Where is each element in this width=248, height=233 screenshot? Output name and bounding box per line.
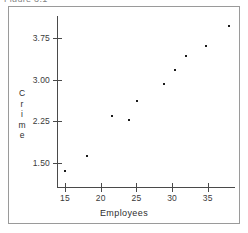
y-axis-title-char: m [16, 120, 28, 131]
data-point [185, 55, 187, 57]
y-tick-mark [53, 38, 62, 39]
x-axis-title: Employees [0, 208, 248, 218]
y-tick-mark [53, 163, 62, 164]
scatter-plot: 1.502.253.003.75 1520253035 C r i m e Em… [0, 0, 248, 233]
x-tick-label: 15 [53, 193, 77, 203]
x-tick-mark [136, 183, 137, 192]
data-point [228, 25, 230, 27]
y-tick-label: 1.50 [22, 158, 50, 168]
x-tick-mark [172, 183, 173, 192]
x-tick-label: 35 [196, 193, 220, 203]
y-axis-title-char: r [16, 99, 28, 110]
x-tick-mark [65, 183, 66, 192]
data-point [86, 155, 88, 157]
y-tick-mark [53, 80, 62, 81]
y-tick-mark [53, 121, 62, 122]
y-tick-label: 3.75 [22, 33, 50, 43]
y-axis-title-char: C [16, 88, 28, 99]
figure-root: Figure 3.1 1.502.253.003.75 1520253035 C… [0, 0, 248, 233]
data-point [163, 83, 165, 85]
y-axis-title-char: e [16, 130, 28, 141]
data-point [128, 119, 130, 121]
x-tick-mark [101, 183, 102, 192]
data-point [174, 69, 176, 71]
data-point [111, 115, 113, 117]
x-tick-label: 20 [89, 193, 113, 203]
x-tick-mark [208, 183, 209, 192]
x-tick-label: 25 [124, 193, 148, 203]
data-point [64, 170, 66, 172]
y-tick-label: 3.00 [22, 75, 50, 85]
y-axis-title-char: i [16, 109, 28, 120]
data-point [205, 45, 207, 47]
x-tick-label: 30 [160, 193, 184, 203]
data-point [136, 100, 138, 102]
y-axis-title: C r i m e [16, 88, 28, 141]
